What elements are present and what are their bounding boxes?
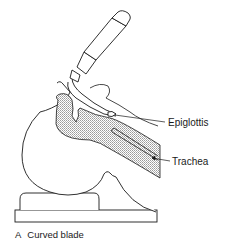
figure-caption: ACurved blade (15, 229, 84, 240)
laryngoscopy-diagram: Epiglottis Trachea ACurved blade (0, 0, 228, 247)
trachea-label: Trachea (172, 157, 208, 167)
epiglottis-leader (115, 115, 165, 122)
epiglottis-label: Epiglottis (168, 118, 209, 128)
caption-letter: A (15, 229, 21, 240)
laryngoscope-handle (70, 11, 130, 82)
caption-text: Curved blade (27, 229, 84, 240)
